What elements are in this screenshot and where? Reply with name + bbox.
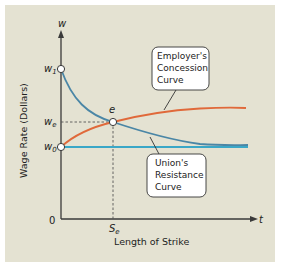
w0-label: w0: [44, 141, 57, 154]
employer-leader-line: [164, 90, 176, 110]
union-callout-line1: Union's: [155, 158, 188, 168]
chart-svg: w t 0 w1 we w0 Se e Length of Strike Wag…: [0, 0, 282, 272]
we-label: we: [44, 116, 57, 129]
origin-label: 0: [49, 215, 55, 226]
employer-callout-line1: Employer's: [157, 51, 207, 61]
union-callout-line2: Resistance: [155, 170, 204, 180]
x-axis-symbol: t: [259, 214, 264, 225]
se-label: Se: [109, 223, 120, 236]
point-e-label: e: [109, 104, 115, 115]
w0-point: [57, 143, 64, 150]
employer-callout-line2: Concession: [157, 63, 208, 73]
employer-callout-line3: Curve: [157, 75, 184, 85]
union-leader-line: [150, 137, 159, 154]
w1-label: w1: [44, 63, 57, 76]
union-callout-line3: Curve: [155, 182, 182, 192]
y-axis-arrow-icon: [58, 30, 64, 38]
employer-concession-curve: [61, 108, 246, 147]
x-axis-title: Length of Strike: [114, 236, 189, 247]
w1-point: [57, 65, 64, 72]
equilibrium-point: [109, 118, 116, 125]
x-axis-arrow-icon: [250, 216, 258, 222]
y-axis-symbol: w: [58, 18, 67, 29]
y-axis-title: Wage Rate (Dollars): [18, 83, 29, 178]
